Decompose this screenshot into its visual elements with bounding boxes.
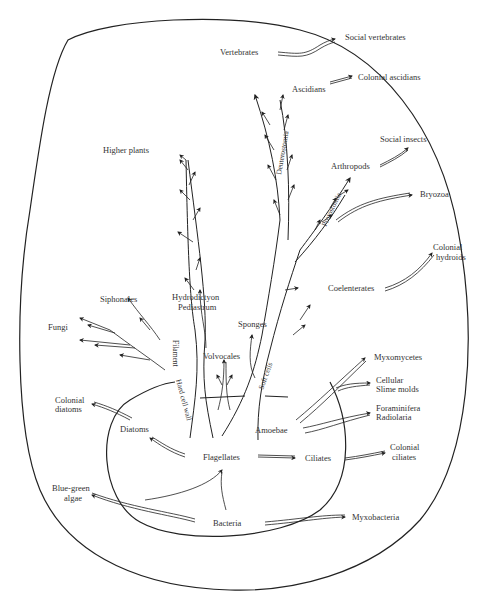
label-colonial-ciliates-2: ciliates (392, 452, 416, 462)
arrow-colonial-diatoms (92, 404, 130, 420)
label-social-vertebrates: Social vertebrates (345, 32, 406, 42)
volvocales-arrow (218, 360, 224, 410)
label-siphonales: Siphonales (100, 294, 137, 304)
arrow-myxomycetes (296, 358, 365, 420)
label-colonial-diatoms-2: diatoms (55, 404, 82, 414)
arrow-line (300, 361, 366, 423)
label-radiolaria: Radiolaria (376, 412, 412, 422)
label-colonial-hydroids: Colonial (433, 242, 463, 252)
branch-arrow (293, 325, 305, 335)
fungi-arrow (95, 345, 135, 348)
label-hard-cell-wall: Hard cell wall (174, 378, 194, 421)
outer-boundary (20, 19, 468, 590)
label-arthropods: Arthropods (331, 161, 370, 171)
label-diatoms: Diatoms (120, 424, 149, 434)
sponges-arrow (250, 335, 255, 378)
label-coelenterates: Coelenterates (328, 283, 374, 293)
higher-plants-arrow (180, 155, 186, 160)
arrow-foraminifera (303, 413, 370, 428)
branch-arrow (196, 258, 200, 270)
arrow-line (92, 493, 195, 519)
arrow-bacteria-flagellates (221, 472, 226, 510)
label-sponges: Sponges (238, 319, 267, 329)
branch-arrow (180, 160, 188, 170)
arrow-colonial-ciliates (345, 453, 385, 460)
arrow-line (305, 415, 370, 433)
arrow-line (380, 150, 408, 167)
label-volvocales: Volvocales (203, 351, 240, 361)
label-social-insects: Social insects (380, 134, 427, 144)
evolution-diagram: Social vertebrates Vertebrates Colonial … (0, 0, 490, 606)
label-colonial-ciliates: Colonial (390, 442, 420, 452)
volvocales-arrow (227, 375, 232, 385)
arrow-social-vertebrates (278, 39, 335, 53)
bryozoa-arrow (338, 195, 412, 222)
arrow-line (278, 42, 335, 56)
label-vertebrates: Vertebrates (220, 47, 258, 57)
branch-arrow (178, 232, 193, 242)
label-myxomycetes: Myxomycetes (374, 352, 422, 362)
arrow-line (94, 402, 132, 418)
arrow-ciliates (258, 457, 295, 458)
arrow-social-insects (380, 148, 408, 165)
branch-arrow (300, 305, 310, 320)
label-protostomia: Protostomia (320, 191, 344, 228)
label-cellular-slime-molds-2: Slime molds (376, 384, 419, 394)
label-hydrodictyon: Hydrodictyon (172, 292, 220, 302)
arrow-diatoms (150, 438, 185, 457)
label-bacteria: Bacteria (213, 518, 242, 528)
branch-arrow (284, 115, 288, 130)
arrow-colonial-hydroids (385, 253, 432, 288)
label-amoebae: Amoebae (255, 425, 288, 435)
label-pediastrum: Pediastrum (178, 302, 217, 312)
label-bryozoa: Bryozoa (420, 189, 449, 199)
label-higher-plants: Higher plants (103, 145, 149, 155)
volvocales-arrow (217, 375, 222, 385)
volvocales-line (226, 362, 230, 410)
branch-arrow (315, 220, 320, 230)
inner-ellipse-segment (265, 396, 288, 397)
label-fungi: Fungi (48, 322, 68, 332)
inner-ellipse-segment (200, 396, 245, 398)
label-ciliates: Ciliates (305, 453, 331, 463)
label-ascidians: Ascidians (292, 84, 326, 94)
branch-arrow (180, 190, 190, 200)
label-soft-cells: Soft cells (256, 361, 274, 391)
fungi-arrow (80, 340, 130, 345)
fungi-arrow (80, 318, 110, 330)
label-flagellates: Flagellates (203, 452, 240, 462)
arrow-line (152, 437, 185, 454)
label-myxobacteria: Myxobacteria (352, 512, 399, 522)
arrow-bacteria-bluegreen (92, 495, 195, 522)
label-blue-green-algae: Blue-green (52, 483, 91, 493)
siphonales-arrow (128, 298, 160, 340)
label-blue-green-algae-2: algae (64, 493, 82, 503)
label-filament: Filament (171, 340, 180, 368)
diagram-canvas: Social vertebrates Vertebrates Colonial … (0, 0, 490, 606)
arrow-line (258, 455, 295, 456)
arrow-to-flagellates (145, 470, 222, 500)
label-colonial-ascidians: Colonial ascidians (358, 72, 421, 82)
trunk-soft-cells (258, 250, 300, 440)
label-colonial-hydroids-2: hydroids (436, 252, 466, 262)
